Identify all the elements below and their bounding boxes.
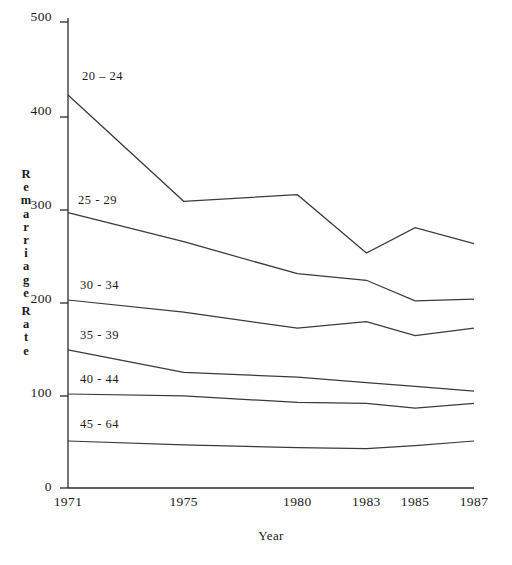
y-tick-label-500: 500: [8, 9, 52, 25]
series-label-45-64: 45 - 64: [80, 417, 119, 432]
series-line-20–24: [68, 95, 474, 253]
x-tick-label-1980: 1980: [267, 494, 327, 510]
series-label-40-44: 40 - 44: [80, 372, 119, 387]
series-line-40-44: [68, 394, 474, 408]
series-label-20–24: 20 – 24: [82, 69, 123, 84]
y-tick-label-200: 200: [8, 291, 52, 307]
y-axis-title-char: e: [18, 345, 34, 358]
series-line-35-39: [68, 350, 474, 391]
y-tick-label-0: 0: [8, 479, 52, 495]
series-label-35-39: 35 - 39: [80, 328, 119, 343]
series-label-30-34: 30 - 34: [80, 278, 119, 293]
series-lines-group: [68, 95, 474, 448]
y-axis-title-char: a: [18, 260, 34, 273]
y-axis-title-char: t: [18, 331, 34, 344]
y-tick-marks: [60, 22, 68, 488]
series-line-25-29: [68, 213, 474, 301]
series-label-25-29: 25 - 29: [78, 193, 117, 208]
y-tick-label-300: 300: [8, 197, 52, 213]
y-axis-title-rate: Rate: [18, 305, 34, 358]
y-axis-title-char: g: [18, 274, 34, 287]
y-tick-label-100: 100: [8, 385, 52, 401]
chart-plot-area: [0, 0, 512, 565]
x-tick-label-1985: 1985: [385, 494, 445, 510]
y-tick-label-400: 400: [8, 103, 52, 119]
x-tick-label-1975: 1975: [154, 494, 214, 510]
remarriage-rate-line-chart: Remarriage Rate Year 0100200300400500 19…: [0, 0, 512, 565]
x-axis-title: Year: [211, 528, 331, 544]
series-line-30-34: [68, 300, 474, 336]
axes-group: [60, 18, 474, 488]
x-tick-label-1971: 1971: [38, 494, 98, 510]
x-tick-label-1987: 1987: [444, 494, 504, 510]
y-axis-title-remarriage: Remarriage: [18, 168, 34, 300]
series-line-45-64: [68, 441, 474, 449]
